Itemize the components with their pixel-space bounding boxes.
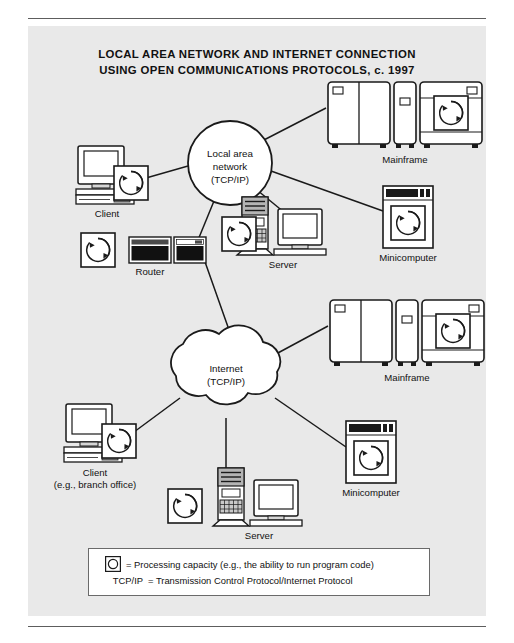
network-diagram-canvas: [28, 26, 486, 616]
node-lan-router: [129, 237, 206, 263]
lan-circle-label: Local area network (TCP/IP): [180, 147, 280, 186]
link-internet-mainframe: [276, 326, 328, 354]
label-net-minicomputer: Minicomputer: [321, 487, 421, 499]
figure-panel: LOCAL AREA NETWORK AND INTERNET CONNECTI…: [28, 26, 486, 616]
legend-row-tcpip: TCP/IP = Transmission Control Protocol/I…: [97, 575, 353, 586]
link-lan-router: [198, 201, 214, 240]
link-internet-minicomputer: [275, 398, 346, 447]
lan-label-line-1: Local area: [207, 148, 253, 159]
node-lan-mainframe: [328, 82, 482, 148]
proc-icon-net-server: [168, 489, 202, 523]
internet-cloud-label: Internet (TCP/IP): [176, 362, 276, 388]
label-net-client-line-1: Client: [83, 467, 108, 478]
label-net-client-line-2: (e.g., branch office): [54, 479, 136, 490]
legend-tcpip-text: = Transmission Control Protocol/Internet…: [148, 575, 353, 586]
top-divider-rule: [28, 18, 486, 19]
node-lan-minicomputer: [383, 186, 433, 248]
proc-icon-lan-router: [81, 233, 115, 267]
node-net-server: [213, 468, 302, 526]
node-net-minicomputer: [346, 421, 396, 483]
lan-label-line-2: network: [213, 161, 247, 172]
label-net-server: Server: [209, 530, 309, 542]
label-net-client: Client (e.g., branch office): [40, 467, 150, 491]
figure-root: LOCAL AREA NETWORK AND INTERNET CONNECTI…: [0, 0, 514, 643]
link-lan-minicomputer: [271, 171, 383, 211]
lan-label-line-3: (TCP/IP): [211, 174, 249, 185]
internet-label-line-2: (TCP/IP): [207, 376, 245, 387]
processing-capacity-icon: [105, 556, 121, 572]
bottom-divider-rule: [28, 626, 486, 627]
legend-processing-text: = Processing capacity (e.g., the ability…: [126, 559, 374, 570]
label-net-mainframe: Mainframe: [357, 372, 457, 384]
label-lan-client: Client: [57, 208, 157, 220]
link-lan-mainframe: [260, 108, 326, 142]
label-lan-server: Server: [233, 259, 333, 271]
label-lan-mainframe: Mainframe: [355, 154, 455, 166]
proc-icon-lan-client: [114, 166, 148, 200]
legend-tcpip-key: TCP/IP: [97, 575, 143, 586]
legend-row-processing: = Processing capacity (e.g., the ability…: [105, 556, 374, 572]
proc-icon-net-client: [102, 424, 136, 458]
link-internet-client: [134, 398, 180, 432]
label-lan-minicomputer: Minicomputer: [358, 252, 458, 264]
internet-label-line-1: Internet: [209, 363, 242, 374]
label-lan-router: Router: [100, 266, 200, 278]
node-net-mainframe: [330, 300, 484, 366]
legend-box: = Processing capacity (e.g., the ability…: [88, 548, 430, 596]
proc-icon-lan-server: [222, 217, 256, 251]
figure-inner: LOCAL AREA NETWORK AND INTERNET CONNECTI…: [28, 26, 486, 616]
